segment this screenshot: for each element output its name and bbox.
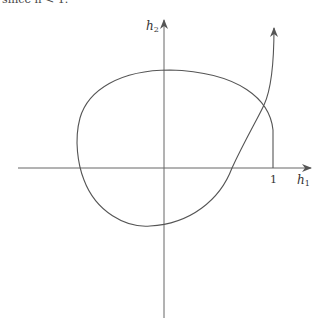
h1-tick-label-1: 1 <box>270 173 277 186</box>
diagram-canvas: since h < 1. h2 1 h1 <box>0 0 326 336</box>
h1-axis-label: h1 <box>297 173 310 188</box>
h2-axis-label: h2 <box>146 19 159 34</box>
open-curve <box>264 28 274 105</box>
phase-diagram: h2 1 h1 <box>0 0 326 336</box>
closed-loop-curve <box>77 70 273 226</box>
